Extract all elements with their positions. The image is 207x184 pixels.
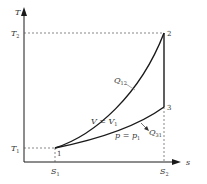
- guide-lines: [24, 33, 164, 162]
- label-constant-volume: V = V1: [91, 117, 118, 127]
- y-axis-arrow-icon: [21, 7, 27, 16]
- point-2-label: 2: [167, 30, 171, 38]
- axes: [21, 7, 181, 165]
- curve-constant-volume: [55, 33, 164, 148]
- x-axis-arrow-icon: [172, 159, 181, 165]
- q12-label: Q12: [114, 76, 127, 86]
- tick-s1: S1: [51, 167, 60, 177]
- heat-q12: Q12: [114, 76, 135, 90]
- process-curves: [55, 33, 164, 148]
- tick-s2: S2: [160, 167, 169, 177]
- y-axis-label: T: [15, 8, 21, 17]
- point-3-label: 3: [167, 104, 171, 112]
- ts-diagram: T s T2 T1 S1 S2 1 2 3 V = V1 p = p1 Q12: [0, 0, 207, 184]
- q31-label: Q31: [149, 128, 162, 138]
- heat-q31: Q31: [141, 123, 162, 138]
- x-axis-label: s: [186, 158, 190, 167]
- label-constant-pressure: p = p1: [115, 131, 140, 141]
- tick-t2: T2: [11, 29, 20, 39]
- tick-t1: T1: [11, 144, 20, 154]
- point-1-label: 1: [57, 150, 61, 158]
